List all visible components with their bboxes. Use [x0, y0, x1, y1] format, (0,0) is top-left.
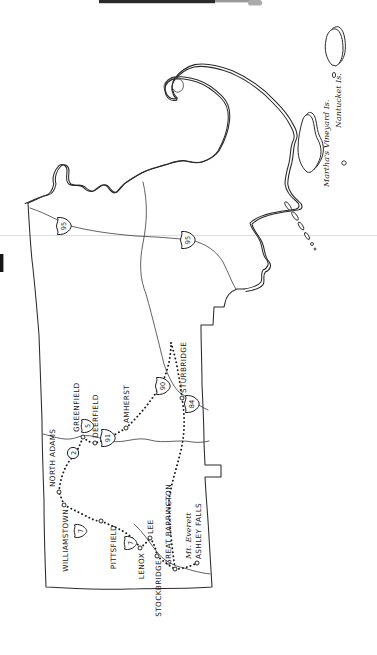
town-label-lenox: LENOX	[137, 553, 146, 579]
shield-number: 95	[60, 222, 68, 230]
town-label-sturbridge: STURBRIDGE	[179, 342, 188, 393]
left-edge-ink-blob	[0, 254, 3, 272]
coastline-path	[28, 66, 299, 289]
town-label-great-barrington: GREAT BARRINGTON	[164, 484, 173, 565]
shield-number: 7	[127, 541, 135, 545]
town-label-williamstown: WILLIAMSTOWN	[61, 509, 70, 572]
shield-number: 91	[104, 434, 112, 442]
town-label-stockbridge: STOCKBRIDGE	[154, 560, 163, 617]
town-dot-great-barrington	[173, 567, 177, 571]
shield-interstate-95-0: 95	[57, 217, 72, 234]
interstate-90-84-road-line	[141, 182, 208, 410]
shield-number: 2	[70, 451, 78, 455]
town-dot-stockbridge	[155, 554, 159, 558]
town-label-greenfield: GREENFIELD	[72, 382, 81, 432]
shield-us-7-5: 7	[74, 524, 87, 537]
book-page: WILLIAMSTOWNNORTH ADAMSGREENFIELDDEERFIE…	[0, 0, 377, 655]
town-dot-ashley-falls	[195, 561, 199, 565]
feature-label-mt-everett: Mt. Everett	[184, 512, 193, 560]
shield-number: 7	[77, 529, 85, 533]
coastline-echo-line	[25, 27, 345, 292]
town-label-deerfield: DEERFIELD	[91, 394, 100, 438]
town-dot-north-adams	[57, 490, 61, 494]
shield-interstate-91-2: 91	[101, 429, 116, 446]
town-dot-deerfield	[93, 441, 97, 445]
connecticut-river-line	[43, 434, 209, 442]
town-label-lee: LEE	[146, 520, 155, 534]
shield-interstate-84-4: 84	[185, 395, 200, 412]
town-dot-greenfield	[81, 435, 85, 439]
town-dot-lee	[148, 536, 152, 540]
town-label-amherst: AMHERST	[122, 385, 131, 423]
feature-label-nantucket-is: Nantucket Is.	[334, 73, 343, 129]
nantucket-island	[325, 29, 343, 66]
marthas-vineyard-island	[298, 115, 321, 173]
town-dot-pittsfield	[99, 519, 103, 523]
no-mans-land-islet	[342, 161, 346, 165]
shield-number: 90	[159, 382, 167, 390]
elizabeth-islands	[284, 201, 316, 250]
shield-number: 5	[84, 424, 92, 428]
shield-number: 84	[188, 400, 196, 408]
town-label-pittsfield: PITTSFIELD	[109, 525, 118, 569]
town-dot-lenox	[138, 546, 142, 550]
page-edge-top-bar-faint	[215, 0, 251, 2]
shield-number: 95	[184, 236, 192, 244]
page-edge-gray-smudge	[248, 0, 262, 6]
shield-interstate-95-1: 95	[181, 231, 196, 248]
town-dot-williamstown	[62, 503, 66, 507]
page-edge-top-bar	[99, 0, 215, 3]
feature-label-martha-s-vineyard-is: Martha's Vineyard Is.	[322, 100, 331, 188]
town-label-ashley-falls: ASHLEY FALLS	[194, 503, 203, 559]
shield-state-2-8: 2	[67, 447, 78, 458]
town-dot-amherst	[124, 426, 128, 430]
rotated-map-group: WILLIAMSTOWNNORTH ADAMSGREENFIELDDEERFIE…	[25, 27, 346, 617]
shield-interstate-90-3: 90	[156, 377, 171, 394]
town-dot-sturbridge	[180, 396, 184, 400]
map-canvas: WILLIAMSTOWNNORTH ADAMSGREENFIELDDEERFIE…	[0, 0, 377, 655]
shield-us-7-6: 7	[124, 536, 137, 549]
town-label-north-adams: NORTH ADAMS	[48, 429, 57, 487]
